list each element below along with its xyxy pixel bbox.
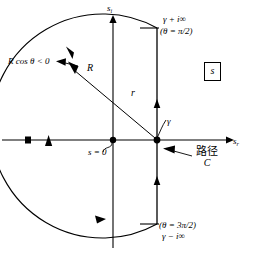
lower-vertical-arrowhead [154, 176, 161, 185]
radius-R-line [68, 62, 155, 139]
gamma-plus-i-infinity-label: γ + i∞ [163, 15, 186, 24]
bromwich-line-C [154, 28, 161, 224]
gamma-point-marker [154, 137, 161, 144]
radius-r-label: r [131, 88, 135, 99]
path-C-letter: C [196, 158, 218, 169]
path-C-arrowhead [163, 146, 175, 154]
arc-real-axis-intersection-marker [25, 137, 31, 144]
real-axis-label: sr [233, 137, 239, 147]
lower-arc-arrowhead [95, 216, 106, 224]
gamma-leader [158, 120, 167, 137]
contour-drawing-canvas [0, 0, 266, 254]
bromwich-contour-figure: si sr γ + i∞ (θ = π/2) (θ = 3π/2) γ − i∞… [0, 0, 266, 254]
upper-vertical-arrowhead [154, 99, 161, 108]
arc-direction-arrows [45, 47, 106, 224]
theta-3pi-over-2-label: (θ = 3π/2) [159, 221, 196, 230]
s-plane-box-label: s [204, 62, 221, 81]
path-C-leader [163, 146, 192, 157]
gamma-point-label: γ [167, 117, 171, 126]
radius-R-label: R [87, 63, 93, 74]
rcos-arrowhead [56, 58, 66, 66]
imaginary-axis [109, 15, 116, 248]
rcos-leader-line [56, 58, 78, 66]
gamma-minus-i-infinity-label: γ − i∞ [162, 232, 185, 241]
imaginary-axis-label: si [107, 4, 112, 14]
imaginary-axis-arrowhead [109, 15, 116, 23]
theta-pi-over-2-label: (θ = π/2) [160, 27, 193, 36]
path-C-label: 路径 C [196, 146, 218, 168]
origin-point-marker [110, 137, 116, 143]
r-cos-theta-label: R cos θ < 0 [8, 57, 50, 66]
arc-to-line-connectors [140, 28, 159, 224]
upper-arc-arrowhead [66, 47, 74, 60]
s-equals-zero-label: s = 0 [88, 148, 107, 157]
real-axis [2, 136, 234, 143]
semicircular-arc-R [0, 14, 157, 238]
